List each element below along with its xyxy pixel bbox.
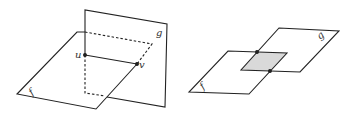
point-u: [84, 54, 87, 57]
right-figure: [189, 28, 339, 94]
label-g-left: g: [156, 27, 162, 38]
plane-f-outline: [17, 32, 137, 109]
hidden-edge-bottom: [85, 55, 105, 96]
point-v: [136, 63, 139, 66]
label-g-right: g: [314, 29, 326, 42]
intersection-point-top: [256, 51, 259, 54]
label-u: u: [75, 49, 81, 60]
label-f-right: f: [196, 79, 208, 92]
overlap-region: [241, 52, 287, 71]
diagram-canvas: u v g f g f: [0, 0, 356, 118]
intersection-point-bottom: [269, 70, 272, 73]
label-v: v: [139, 59, 145, 70]
plane-g-outline: [85, 10, 167, 107]
intersection-line-uv: [85, 55, 137, 64]
